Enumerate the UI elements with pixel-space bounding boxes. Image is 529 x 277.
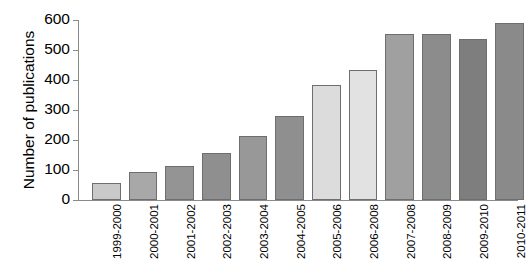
x-axis-label: 2009-2010 [478, 204, 490, 277]
x-axis-label: 2003-2004 [258, 204, 270, 277]
x-axis-label: 2000-2001 [148, 204, 160, 277]
bar [312, 85, 341, 200]
y-tick-label: 200 [44, 130, 70, 148]
bar [495, 23, 524, 200]
bar [385, 34, 414, 201]
bar-series [78, 20, 518, 201]
bar-chart: Number of publications 01002003004005006… [0, 0, 529, 277]
x-axis-label: 2001-2002 [185, 204, 197, 277]
bar [92, 183, 121, 200]
plot-area: 0100200300400500600 [78, 20, 518, 201]
x-axis-label: 2010-2011 [515, 204, 527, 277]
y-tick-label: 500 [44, 40, 70, 58]
y-tick-label: 300 [44, 100, 70, 118]
x-axis-label: 2005-2006 [331, 204, 343, 277]
bar [349, 70, 378, 201]
bar [202, 153, 231, 200]
bar [459, 39, 488, 200]
x-axis-label: 2008-2009 [441, 204, 453, 277]
bar [165, 166, 194, 200]
y-tick-label: 400 [44, 70, 70, 88]
x-axis-label: 1999-2000 [111, 204, 123, 277]
x-axis-label: 2004-2005 [295, 204, 307, 277]
y-tick-label: 100 [44, 160, 70, 178]
x-axis-label: 2002-2003 [221, 204, 233, 277]
bar [275, 116, 304, 200]
x-axis-labels: 1999-20002000-20012001-20022002-20032003… [78, 204, 518, 276]
y-tick-label: 600 [44, 10, 70, 28]
x-axis-label: 2006-2008 [368, 204, 380, 277]
bar [422, 34, 451, 200]
y-axis-title: Number of publications [20, 15, 38, 205]
bar [129, 172, 158, 200]
bar [239, 136, 268, 200]
y-tick-label: 0 [61, 190, 70, 208]
x-axis-label: 2007-2008 [405, 204, 417, 277]
